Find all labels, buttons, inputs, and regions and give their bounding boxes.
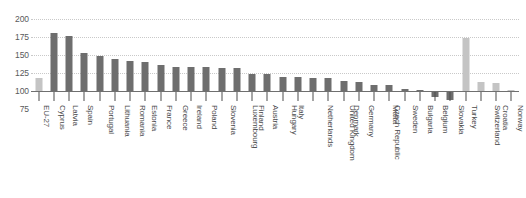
x-tick-mark (130, 92, 131, 101)
bar-group[interactable]: EU-27 (31, 0, 46, 198)
x-tick-mark (435, 92, 436, 101)
x-tick-mark (221, 92, 222, 101)
bar[interactable] (157, 65, 164, 91)
bar-group[interactable]: Sweden (397, 0, 412, 198)
y-tick-label-150: 150 (3, 51, 29, 60)
bar-group[interactable]: Romania (123, 0, 138, 198)
x-category-label: Italy (297, 105, 305, 119)
y-tick-label-100: 100 (3, 87, 29, 96)
x-tick-mark (404, 92, 405, 101)
x-tick-mark (511, 92, 512, 101)
bar[interactable] (188, 67, 195, 91)
bar[interactable] (416, 90, 423, 91)
bar-group[interactable]: United Kingdom (321, 0, 336, 198)
bar[interactable] (203, 67, 210, 91)
bar-group[interactable]: France (153, 0, 168, 198)
x-tick-mark (328, 92, 329, 101)
bar-group[interactable]: Finland (245, 0, 260, 198)
bar-group[interactable]: Spain (77, 0, 92, 198)
y-tick-label-125: 125 (3, 69, 29, 78)
bar[interactable] (508, 90, 515, 91)
bar[interactable] (294, 77, 301, 91)
x-tick-mark (374, 92, 375, 101)
y-tick-label-75: 75 (3, 105, 29, 114)
bars-and-categories: EU-27CyprusLatviaSpainPortugalLithuaniaR… (31, 0, 519, 198)
bar[interactable] (462, 38, 469, 91)
x-tick-mark (282, 92, 283, 101)
bar[interactable] (35, 78, 42, 91)
bar[interactable] (50, 33, 57, 91)
bar[interactable] (172, 67, 179, 91)
bar[interactable] (477, 82, 484, 91)
x-tick-mark (53, 92, 54, 101)
bar[interactable] (264, 74, 271, 91)
x-tick-mark (252, 92, 253, 101)
bar[interactable] (66, 36, 73, 91)
bar[interactable] (386, 85, 393, 91)
bar[interactable] (142, 62, 149, 91)
x-tick-mark (419, 92, 420, 101)
bar-group[interactable]: Norway (504, 0, 519, 198)
bar[interactable] (310, 78, 317, 91)
x-tick-mark (69, 92, 70, 101)
bar-group[interactable]: Belgium (428, 0, 443, 198)
bar-group[interactable]: Lithuania (107, 0, 122, 198)
bar[interactable] (218, 68, 225, 91)
x-tick-mark (99, 92, 100, 101)
bar-group[interactable]: Latvia (62, 0, 77, 198)
bar[interactable] (401, 89, 408, 91)
bar[interactable] (96, 56, 103, 91)
bar[interactable] (279, 77, 286, 91)
bar[interactable] (249, 74, 256, 91)
x-tick-mark (114, 92, 115, 101)
bar-group[interactable]: Luxembourg (229, 0, 244, 198)
bar-group[interactable]: Bulgaria (412, 0, 427, 198)
bar-group[interactable]: Estonia (138, 0, 153, 198)
x-tick-mark (175, 92, 176, 101)
bar-group[interactable]: Czech Republic (367, 0, 382, 198)
x-category-label: Norway (517, 105, 525, 132)
y-tick-label-200: 200 (3, 15, 29, 24)
bar-group[interactable]: Germany (351, 0, 366, 198)
bar-group[interactable]: Malta (382, 0, 397, 198)
bar[interactable] (81, 53, 88, 91)
bar-group[interactable]: Portugal (92, 0, 107, 198)
x-tick-mark (191, 92, 192, 101)
bar[interactable] (371, 85, 378, 91)
y-tick-label-175: 175 (3, 33, 29, 42)
x-tick-mark (465, 92, 466, 101)
bar-group[interactable]: Italy (290, 0, 305, 198)
bar[interactable] (111, 59, 118, 91)
bar-group[interactable]: Cyprus (46, 0, 61, 198)
bar-group[interactable]: Greece (168, 0, 183, 198)
x-tick-mark (160, 92, 161, 101)
x-tick-mark (84, 92, 85, 101)
bar-group[interactable]: Slovakia (443, 0, 458, 198)
bar-group[interactable]: Turkey (458, 0, 473, 198)
bar[interactable] (493, 83, 500, 91)
x-tick-mark (145, 92, 146, 101)
x-tick-mark (297, 92, 298, 101)
bar[interactable] (233, 68, 240, 91)
bar-group[interactable]: Denmark (336, 0, 351, 198)
x-tick-mark (206, 92, 207, 101)
bar-group[interactable]: Ireland (184, 0, 199, 198)
y-axis: 20017515012510075 (0, 0, 29, 198)
bar-group[interactable]: Slovenia (214, 0, 229, 198)
x-tick-mark (496, 92, 497, 101)
bar-group[interactable]: Poland (199, 0, 214, 198)
bar-group[interactable]: Hungary (275, 0, 290, 198)
x-tick-mark (450, 92, 451, 101)
bar-group[interactable]: Croatia (489, 0, 504, 198)
bar[interactable] (127, 61, 134, 91)
x-tick-mark (480, 92, 481, 101)
x-tick-mark (267, 92, 268, 101)
bar-group[interactable]: Switzerland (473, 0, 488, 198)
x-tick-mark (313, 92, 314, 101)
bar[interactable] (355, 82, 362, 91)
bar-group[interactable]: Netherlands (306, 0, 321, 198)
bar[interactable] (340, 81, 347, 91)
bar[interactable] (325, 78, 332, 91)
bar-group[interactable]: Austria (260, 0, 275, 198)
